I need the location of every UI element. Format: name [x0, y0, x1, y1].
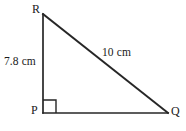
measure-label-leg-pr: 7.8 cm	[4, 56, 36, 68]
right-angle-marker-icon	[43, 100, 56, 113]
vertex-label-r: R	[32, 3, 40, 15]
vertex-label-q: Q	[171, 105, 180, 117]
triangle-diagram: R P Q 7.8 cm 10 cm	[0, 0, 186, 131]
side-hypotenuse-rq-line	[43, 14, 168, 113]
vertex-label-p: P	[31, 104, 38, 116]
measure-label-hypotenuse-rq: 10 cm	[102, 47, 131, 59]
